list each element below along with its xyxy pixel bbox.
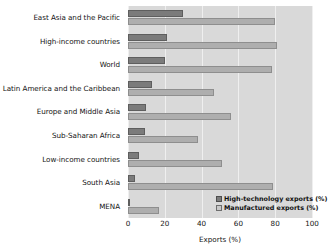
x-axis-title: Exports (%) bbox=[128, 236, 312, 243]
bar bbox=[128, 113, 231, 120]
bar bbox=[128, 183, 273, 190]
legend-item[interactable]: High-technology exports (%) bbox=[216, 196, 327, 202]
gridline bbox=[312, 6, 313, 218]
x-axis-ticks: 020406080100 bbox=[128, 220, 312, 232]
bar-chart: East Asia and the PacificHigh-income cou… bbox=[0, 0, 335, 252]
legend-swatch-icon bbox=[216, 205, 222, 211]
x-tick-label: 80 bbox=[271, 220, 280, 227]
bar bbox=[128, 10, 183, 17]
bar bbox=[128, 207, 159, 214]
bar bbox=[128, 57, 165, 64]
bar-group bbox=[128, 100, 312, 124]
plot-area bbox=[128, 6, 312, 218]
category-label: World bbox=[0, 53, 124, 77]
bar bbox=[128, 18, 275, 25]
bar-group bbox=[128, 171, 312, 195]
x-tick-label: 20 bbox=[160, 220, 169, 227]
bar bbox=[128, 42, 277, 49]
category-label: Europe and Middle Asia bbox=[0, 100, 124, 124]
bar bbox=[128, 34, 167, 41]
category-axis: East Asia and the PacificHigh-income cou… bbox=[0, 6, 124, 218]
bar bbox=[128, 199, 130, 206]
bar-group bbox=[128, 30, 312, 54]
legend-label: Manufactured exports (%) bbox=[224, 205, 318, 211]
category-label: Sub-Saharan Africa bbox=[0, 124, 124, 148]
bar bbox=[128, 136, 198, 143]
category-label: South Asia bbox=[0, 171, 124, 195]
legend-swatch-icon bbox=[216, 196, 222, 202]
bar bbox=[128, 66, 272, 73]
bar bbox=[128, 81, 152, 88]
category-label: Low-income countries bbox=[0, 147, 124, 171]
bar bbox=[128, 175, 135, 182]
category-label: MENA bbox=[0, 195, 124, 219]
legend-label: High-technology exports (%) bbox=[224, 196, 327, 202]
bar bbox=[128, 104, 146, 111]
x-tick-label: 0 bbox=[126, 220, 131, 227]
bar bbox=[128, 89, 214, 96]
bar bbox=[128, 152, 139, 159]
legend-item[interactable]: Manufactured exports (%) bbox=[216, 205, 327, 211]
category-label: East Asia and the Pacific bbox=[0, 6, 124, 30]
bars-layer bbox=[128, 6, 312, 218]
bar-group bbox=[128, 6, 312, 30]
bar-group bbox=[128, 147, 312, 171]
x-tick-label: 40 bbox=[197, 220, 206, 227]
bar bbox=[128, 128, 145, 135]
x-tick-label: 60 bbox=[234, 220, 243, 227]
bar bbox=[128, 160, 222, 167]
chart-legend: High-technology exports (%)Manufactured … bbox=[216, 196, 327, 211]
bar-group bbox=[128, 77, 312, 101]
x-tick-label: 100 bbox=[305, 220, 319, 227]
bar-group bbox=[128, 53, 312, 77]
bar-group bbox=[128, 124, 312, 148]
category-label: High-income countries bbox=[0, 30, 124, 54]
category-label: Latin America and the Caribbean bbox=[0, 77, 124, 101]
